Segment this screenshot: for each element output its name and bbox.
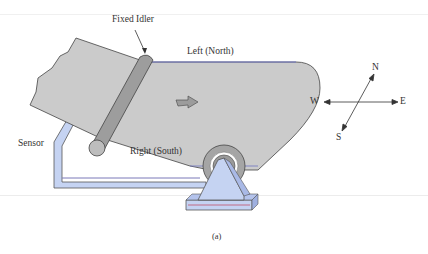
compass-east-label: E — [400, 96, 406, 106]
compass-icon — [324, 74, 398, 131]
compass-west-label: W — [310, 96, 319, 106]
compass-north-label: N — [372, 62, 379, 72]
right-south-label: Right (South) — [130, 146, 182, 156]
fixed-idler-label: Fixed Idler — [112, 14, 154, 24]
compass-south-label: S — [336, 132, 341, 142]
left-north-label: Left (North) — [187, 46, 234, 56]
figure-caption: (a) — [212, 231, 221, 241]
sensor-label: Sensor — [18, 138, 44, 148]
conveyor-belt-diagram — [0, 0, 428, 254]
